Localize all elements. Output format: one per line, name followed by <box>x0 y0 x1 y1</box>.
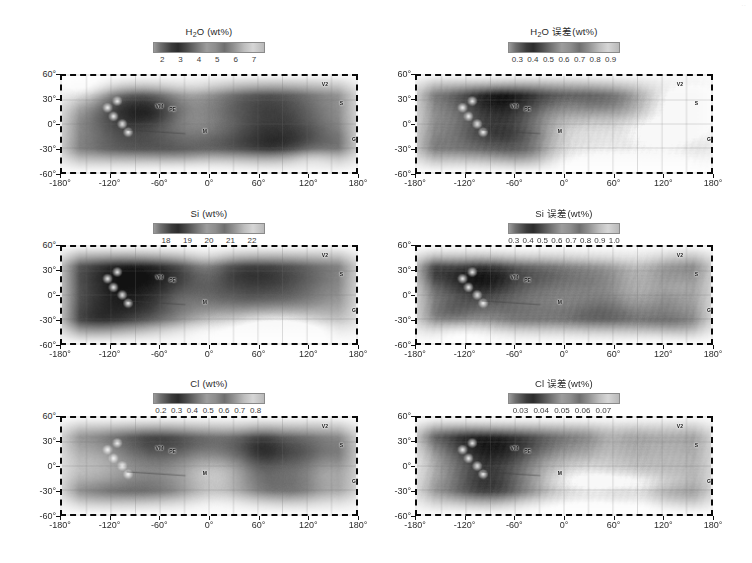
colorbar-title-h2o_err: H2O 误差(wt%) <box>415 26 713 39</box>
colorbar-tick: 5 <box>215 54 219 66</box>
map-feature-label-m: M <box>558 128 562 134</box>
y-axis-tick <box>411 320 415 321</box>
x-axis-label: -60° <box>506 349 523 359</box>
x-axis-tick <box>415 345 416 349</box>
colorbar-tick: 2 <box>160 54 164 66</box>
x-axis-label: 180° <box>349 520 368 530</box>
x-axis-label: 0° <box>560 520 569 530</box>
y-axis-tick <box>411 149 415 150</box>
map-axes-cl: VMPEMV2SG60°30°0°-30°-60°-180°-120°-60°0… <box>60 416 358 516</box>
x-axis-tick <box>713 174 714 178</box>
corner-mark: ·· <box>741 2 746 9</box>
colorbar-ticks-h2o: 234567 <box>60 54 358 66</box>
colorbar-title-rest-h2o: O (wt%) <box>197 26 233 37</box>
x-axis-label: -180° <box>49 178 71 188</box>
y-axis-tick <box>56 149 60 150</box>
y-axis-label: 60° <box>397 411 411 421</box>
x-axis-tick <box>259 174 260 178</box>
x-axis-label: 180° <box>704 349 723 359</box>
colorbar-tick: 3 <box>178 54 182 66</box>
map-feature-label-s: S <box>695 100 698 106</box>
x-axis-tick <box>663 174 664 178</box>
x-axis-label: -180° <box>49 520 71 530</box>
x-axis-tick <box>60 174 61 178</box>
colorbar-tick: 4 <box>197 54 201 66</box>
map-feature-label-vm: VM <box>156 445 164 451</box>
map-frame-cl_err <box>415 416 713 516</box>
y-axis-label: 0° <box>402 119 411 129</box>
map-feature-label-pe: PE <box>169 448 176 454</box>
colorbar-cl_err: Cl 误差(wt%)0.030.040.050.060.07 <box>415 378 713 417</box>
map-axes-si: VMPEMV2SG60°30°0°-30°-60°-180°-120°-60°0… <box>60 245 358 345</box>
map-feature-label-v2: V2 <box>322 423 328 429</box>
y-axis-label: -30° <box>394 486 411 496</box>
map-feature-label-s: S <box>695 442 698 448</box>
map-frame-h2o <box>60 74 358 174</box>
x-axis-tick <box>209 345 210 349</box>
y-axis-label: 30° <box>397 436 411 446</box>
colorbar-tick: 0.3 <box>512 54 523 66</box>
x-axis-tick <box>308 174 309 178</box>
x-axis-label: -120° <box>99 520 121 530</box>
map-frame-h2o_err <box>415 74 713 174</box>
colorbar-si_err: Si 误差(wt%)0.30.40.50.60.70.80.91.0 <box>415 208 713 247</box>
y-axis-label: 0° <box>47 290 56 300</box>
y-axis-tick <box>411 99 415 100</box>
x-axis-tick <box>614 174 615 178</box>
map-image-cl_err <box>417 418 711 514</box>
x-axis-tick <box>564 516 565 520</box>
y-axis-label: 30° <box>397 265 411 275</box>
x-axis-tick <box>308 516 309 520</box>
x-axis-tick <box>465 516 466 520</box>
y-axis-tick <box>56 491 60 492</box>
x-axis-label: 180° <box>349 349 368 359</box>
y-axis-label: 0° <box>402 290 411 300</box>
x-axis-label: 180° <box>704 178 723 188</box>
x-axis-tick <box>415 174 416 178</box>
map-axes-si_err: VMPEMV2SG60°30°0°-30°-60°-180°-120°-60°0… <box>415 245 713 345</box>
x-axis-tick <box>663 345 664 349</box>
map-image-h2o <box>62 76 356 172</box>
x-axis-label: -180° <box>404 178 426 188</box>
figure-root: ·· H2O (wt%)234567VMPEMV2SG60°30°0°-30°-… <box>0 0 752 563</box>
map-feature-label-vm: VM <box>511 274 519 280</box>
colorbar-title-sub-h2o: 2 <box>193 31 197 38</box>
y-axis-tick <box>411 74 415 75</box>
map-feature-label-pe: PE <box>169 277 176 283</box>
colorbar-gradient-cl <box>153 393 265 404</box>
x-axis-tick <box>514 345 515 349</box>
y-axis-tick <box>56 416 60 417</box>
map-image-si_err <box>417 247 711 343</box>
colorbar-title-cl_err: Cl 误差(wt%) <box>415 378 713 390</box>
x-axis-tick <box>259 345 260 349</box>
y-axis-label: 0° <box>47 119 56 129</box>
map-axes-cl_err: VMPEMV2SG60°30°0°-30°-60°-180°-120°-60°0… <box>415 416 713 516</box>
y-axis-label: 60° <box>42 240 56 250</box>
x-axis-tick <box>663 516 664 520</box>
map-feature-label-m: M <box>203 128 207 134</box>
y-axis-tick <box>56 124 60 125</box>
y-axis-tick <box>56 245 60 246</box>
y-axis-label: 0° <box>47 461 56 471</box>
x-axis-label: 0° <box>205 520 214 530</box>
map-feature-label-m: M <box>558 299 562 305</box>
x-axis-tick <box>159 516 160 520</box>
colorbar-tick: 0.9 <box>605 54 616 66</box>
x-axis-label: 0° <box>205 178 214 188</box>
map-feature-label-pe: PE <box>524 277 531 283</box>
x-axis-label: 120° <box>299 178 318 188</box>
colorbar-title-sub-h2o_err: 2 <box>537 31 541 38</box>
y-axis-tick <box>411 124 415 125</box>
x-axis-label: -60° <box>151 349 168 359</box>
x-axis-tick <box>358 345 359 349</box>
map-image-si <box>62 247 356 343</box>
y-axis-label: 30° <box>42 94 56 104</box>
map-feature-label-m: M <box>203 470 207 476</box>
x-axis-tick <box>514 516 515 520</box>
colorbar-h2o_err: H2O 误差(wt%)0.30.40.50.60.70.80.9 <box>415 26 713 66</box>
x-axis-label: -120° <box>99 349 121 359</box>
x-axis-tick <box>110 516 111 520</box>
colorbar-gradient-h2o_err <box>508 42 620 53</box>
x-axis-label: 60° <box>252 520 266 530</box>
y-axis-label: -30° <box>39 315 56 325</box>
